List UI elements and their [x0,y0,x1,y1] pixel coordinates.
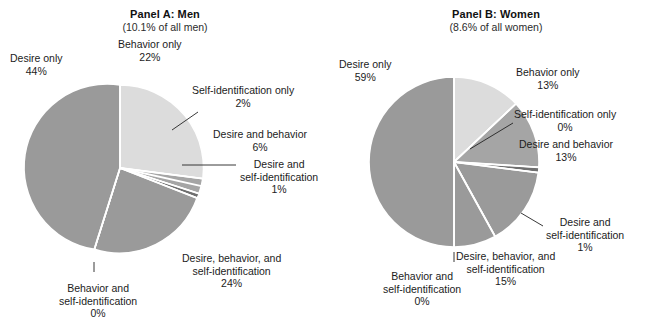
label-desire-behavior-selfid: Desire, behavior, and self-identificatio… [182,252,281,290]
slice-desire-only [369,77,454,247]
panel-b-women: Panel B: Women (8.6% of all women) [331,0,661,327]
label-behavior-selfid: Behavior and self-identification 0% [383,270,461,308]
label-desire-behavior: Desire and behavior 13% [519,138,613,163]
label-desire-behavior-selfid: Desire, behavior, and self-identificatio… [456,250,555,288]
label-desire-selfid: Desire and self-identification 1% [240,158,318,196]
label-selfid-only: Self-identification only 2% [192,84,294,109]
label-desire-only: Desire only 59% [339,58,392,83]
label-behavior-selfid: Behavior and self-identification 0% [59,282,137,320]
label-selfid-only: Self-identification only 0% [514,108,616,133]
panel-a-men: Panel A: Men (10.1% of all men) [0,0,330,327]
label-desire-selfid: Desire and self-identification 1% [546,216,624,254]
label-desire-only: Desire only 44% [10,52,63,77]
panel-a-slices [24,84,204,253]
label-behavior-only: Behavior only 13% [516,66,580,91]
label-behavior-only: Behavior only 22% [118,38,182,63]
label-desire-behavior: Desire and behavior 6% [213,128,307,153]
pie-chart-figure: Panel A: Men (10.1% of all men) [0,0,661,327]
